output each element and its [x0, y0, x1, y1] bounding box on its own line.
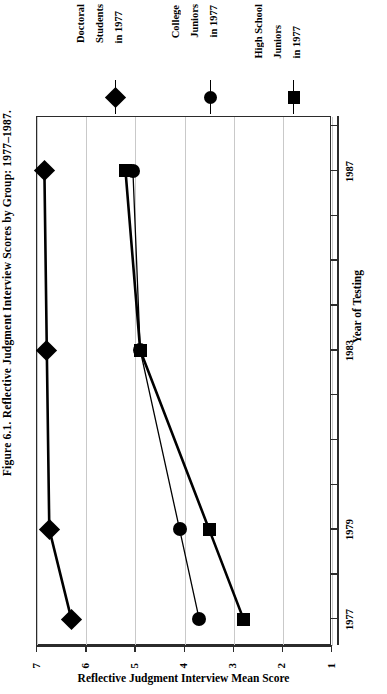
- year-axis-tick: [330, 573, 337, 574]
- figure-caption-text: Figure 6.1. Reflective Judgment Intervie…: [2, 110, 14, 476]
- legend-line-2: Juniors: [271, 25, 284, 59]
- legend-line-3: in 1977: [207, 5, 220, 37]
- tick-text: 7: [31, 663, 42, 669]
- value-axis-title: Reflective Judgment Interview Mean Score: [36, 672, 331, 684]
- series-markers: [37, 117, 332, 646]
- tick-text: 5: [129, 663, 140, 669]
- data-point-circle: [173, 522, 187, 536]
- legend-label-college-juniors: College Juniors in 1977: [169, 4, 255, 78]
- year-axis-tick-label: 1987: [345, 161, 375, 179]
- value-axis-tick: [85, 645, 86, 652]
- legend-item-doctoral-students: Doctoral Students in 1977: [74, 2, 160, 114]
- legend-line-1: College: [169, 5, 182, 38]
- year-axis: [337, 116, 339, 645]
- data-point-square: [119, 164, 132, 177]
- square-marker-icon: [288, 91, 300, 104]
- year-axis-tick: [330, 439, 337, 440]
- value-axis-tick-label: 7: [25, 654, 47, 674]
- value-axis-tick: [331, 645, 332, 652]
- legend-label-high-school-juniors: High School Juniors in 1977: [252, 4, 338, 78]
- year-axis-tick: [330, 394, 337, 395]
- tick-text: 1987: [345, 161, 356, 182]
- tick-text: 6: [80, 663, 91, 669]
- data-point-diamond: [34, 160, 55, 181]
- plot-area: [36, 116, 331, 645]
- tick-text: 2: [276, 663, 287, 669]
- figure-caption: Figure 6.1. Reflective Judgment Intervie…: [2, 110, 22, 590]
- value-axis-tick-label: 4: [173, 654, 195, 674]
- value-axis-tick-label: 1: [320, 654, 342, 674]
- value-axis-tick-label: 2: [271, 654, 293, 674]
- year-axis-tick: [330, 484, 337, 485]
- data-point-diamond: [61, 608, 82, 629]
- data-point-square: [203, 523, 216, 536]
- value-axis-tick: [282, 645, 283, 652]
- year-axis-tick: [330, 215, 337, 216]
- legend-line-1: Doctoral: [74, 4, 87, 43]
- value-axis-tick: [184, 645, 185, 652]
- chart-legend: Doctoral Students in 1977 College Junior…: [36, 2, 336, 114]
- year-axis-tick: [330, 259, 337, 260]
- legend-line-2: Students: [93, 4, 106, 43]
- data-point-square: [134, 344, 147, 357]
- year-axis-title: Year of Testing: [352, 270, 374, 450]
- data-point-square: [237, 613, 250, 626]
- value-axis-tick: [233, 645, 234, 652]
- value-axis-tick-label: 3: [222, 654, 244, 674]
- year-axis-tick: [330, 304, 337, 305]
- gridline: [332, 117, 333, 646]
- legend-line-1: High School: [252, 4, 265, 59]
- value-axis-tick-label: 6: [74, 654, 96, 674]
- legend-item-high-school-juniors: High School Juniors in 1977: [252, 2, 338, 114]
- value-axis-tick-label: 5: [123, 654, 145, 674]
- legend-item-college-juniors: College Juniors in 1977: [169, 2, 255, 114]
- data-point-diamond: [36, 340, 57, 361]
- tick-text: 1977: [345, 609, 356, 630]
- legend-label-doctoral-students: Doctoral Students in 1977: [74, 4, 160, 78]
- year-axis-tick: [330, 349, 337, 350]
- data-point-diamond: [39, 519, 60, 540]
- tick-text: 1979: [345, 519, 356, 540]
- tick-text: 1: [326, 663, 337, 669]
- circle-marker-icon: [204, 91, 217, 104]
- figure-container: Figure 6.1. Reflective Judgment Intervie…: [0, 0, 387, 694]
- value-axis-tick: [134, 645, 135, 652]
- year-axis-tick: [330, 528, 337, 529]
- year-axis-title-text: Year of Testing: [352, 270, 364, 343]
- year-axis-tick: [330, 618, 337, 619]
- data-point-circle: [192, 612, 206, 626]
- legend-line-3: in 1977: [112, 11, 125, 43]
- value-axis-tick: [36, 645, 37, 652]
- value-axis: [36, 645, 331, 647]
- legend-line-3: in 1977: [290, 26, 303, 58]
- diamond-marker-icon: [105, 87, 126, 108]
- tick-text: 4: [178, 663, 189, 669]
- legend-line-2: Juniors: [188, 4, 201, 38]
- year-axis-tick-label: 1979: [345, 519, 375, 537]
- year-axis-tick: [330, 170, 337, 171]
- tick-text: 3: [227, 663, 238, 669]
- year-axis-tick: [330, 125, 337, 126]
- year-axis-tick-label: 1977: [345, 609, 375, 627]
